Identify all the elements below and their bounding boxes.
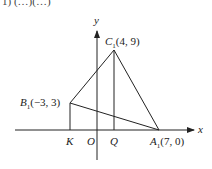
triangle-coordinate-diagram: 1) (…)(…) y x C1(4, 9) B1(−3, 3) A1(7, 0…: [0, 0, 212, 169]
point-b1-label: B1(−3, 3): [20, 96, 61, 111]
point-q-label: Q: [110, 135, 118, 147]
header-fragment: 1) (…)(…): [2, 0, 51, 8]
segment-b1-c1: [70, 50, 114, 103]
point-c1-label: C1(4, 9): [105, 35, 140, 50]
origin-label: O: [87, 135, 95, 147]
x-axis-label: x: [197, 123, 203, 135]
point-k-label: K: [65, 135, 74, 147]
point-a1-label: A1(7, 0): [149, 135, 184, 150]
y-axis-label: y: [93, 14, 99, 26]
